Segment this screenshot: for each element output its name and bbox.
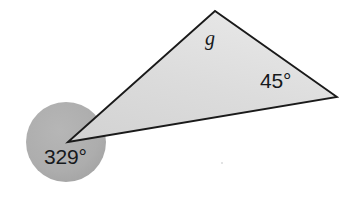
scan-artifact-speck bbox=[221, 162, 223, 164]
reflex-angle-circle-marker bbox=[26, 102, 106, 182]
apex-angle-label: g bbox=[205, 28, 215, 48]
reflex-angle-label: 329° bbox=[44, 146, 87, 167]
geometry-figure: 329° 45° g bbox=[0, 0, 350, 203]
geometry-canvas bbox=[0, 0, 350, 203]
right-vertex-angle-label: 45° bbox=[260, 70, 291, 91]
triangle-shape bbox=[68, 11, 337, 142]
